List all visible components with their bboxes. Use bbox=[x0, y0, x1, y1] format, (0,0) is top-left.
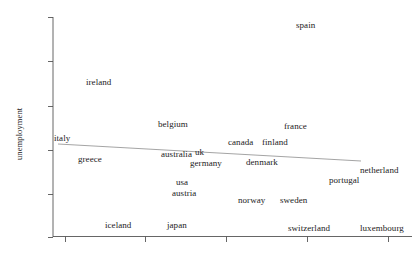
data-point-label: greece bbox=[78, 155, 102, 164]
data-point-label: italy bbox=[54, 134, 70, 143]
data-point-label: switzerland bbox=[288, 224, 330, 233]
y-axis-title: unemployment bbox=[14, 108, 24, 160]
data-point-label: sweden bbox=[280, 196, 307, 205]
y-axis-ticks bbox=[48, 18, 53, 238]
plot-canvas bbox=[0, 0, 418, 253]
data-point-label: japan bbox=[167, 221, 187, 230]
data-point-label: netherland bbox=[360, 166, 398, 175]
data-point-label: belgium bbox=[158, 120, 188, 129]
axes-group bbox=[53, 17, 412, 237]
data-point-label: uk bbox=[195, 148, 204, 157]
data-point-label: ireland bbox=[86, 78, 111, 87]
scatter-plot-figure: unemployment spainirelandbelgiumfranceit… bbox=[0, 0, 418, 253]
data-point-label: france bbox=[284, 122, 307, 131]
data-point-label: spain bbox=[296, 21, 315, 30]
x-axis-ticks bbox=[66, 237, 389, 243]
data-point-label: norway bbox=[238, 196, 265, 205]
data-point-label: germany bbox=[190, 159, 222, 168]
data-point-label: luxembourg bbox=[360, 224, 404, 233]
data-point-label: usa bbox=[176, 178, 188, 187]
data-point-label: canada bbox=[228, 138, 253, 147]
data-point-label: denmark bbox=[246, 158, 278, 167]
data-point-label: australia bbox=[161, 150, 192, 159]
data-point-label: portugal bbox=[329, 176, 359, 185]
data-point-label: austria bbox=[172, 189, 196, 198]
data-point-label: finland bbox=[262, 138, 288, 147]
data-point-label: iceland bbox=[105, 221, 131, 230]
